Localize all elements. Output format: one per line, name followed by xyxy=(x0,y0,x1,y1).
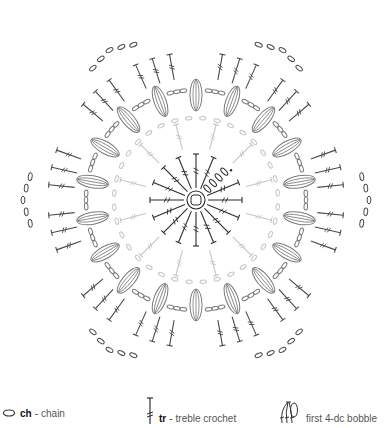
legend-item-bobble: first 4-dc bobble xyxy=(277,396,377,424)
chain-oval-icon xyxy=(2,408,16,418)
legend-label-chain: chain xyxy=(41,408,65,419)
legend-item-chain: ch - chain xyxy=(2,408,65,419)
round-2 xyxy=(112,116,279,283)
legend-abbr-tr: tr xyxy=(159,413,166,424)
legend-item-treble: tr - treble crochet xyxy=(145,396,236,424)
treble-crochet-icon xyxy=(145,396,155,424)
legend-label-bobble: first 4-dc bobble xyxy=(306,413,377,424)
legend-sep: - xyxy=(169,413,172,424)
round-1 xyxy=(150,154,242,246)
legend-sep: - xyxy=(35,408,38,419)
round-3 xyxy=(76,79,316,321)
legend-label-treble: treble crochet xyxy=(176,413,237,424)
legend: ch - chain tr - treble crochet xyxy=(0,396,391,428)
bobble-icon xyxy=(277,396,303,424)
legend-abbr-ch: ch xyxy=(20,408,32,419)
crochet-chart xyxy=(0,0,391,390)
